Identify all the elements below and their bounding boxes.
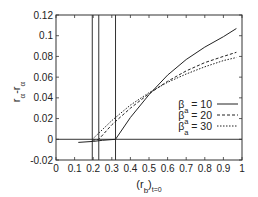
x-tick-label: 0.2 bbox=[86, 163, 100, 174]
y-tick-label: 0 bbox=[47, 134, 53, 145]
legend: βa = 10βa = 20βa = 30 bbox=[178, 98, 238, 137]
legend-label: βa = 30 bbox=[178, 120, 212, 137]
y-axis-label: rα-rα bbox=[10, 81, 27, 102]
x-tick-label: 0.4 bbox=[123, 163, 137, 174]
x-tick-label: 0.7 bbox=[179, 163, 193, 174]
series-line-3 bbox=[92, 58, 236, 140]
line-chart: 00.10.20.30.40.50.60.70.80.91-0.0200.020… bbox=[0, 0, 258, 197]
series-layer bbox=[78, 15, 236, 160]
x-tick-label: 1 bbox=[239, 163, 245, 174]
series-line-1 bbox=[78, 29, 236, 143]
y-tick-label: 0.02 bbox=[34, 113, 54, 124]
x-tick-label: 0.9 bbox=[216, 163, 230, 174]
y-tick-label: 0.08 bbox=[34, 51, 54, 62]
x-tick-label: 0.6 bbox=[161, 163, 175, 174]
axes: 00.10.20.30.40.50.60.70.80.91-0.0200.020… bbox=[30, 10, 245, 175]
x-tick-label: 0.3 bbox=[105, 163, 119, 174]
y-tick-label: 0.1 bbox=[39, 30, 53, 41]
y-tick-label: 0.12 bbox=[34, 10, 54, 21]
plot-frame bbox=[56, 15, 242, 160]
x-tick-label: 0 bbox=[53, 163, 59, 174]
x-tick-label: 0.8 bbox=[198, 163, 212, 174]
x-tick-label: 0.1 bbox=[68, 163, 82, 174]
series-line-2 bbox=[92, 52, 236, 140]
y-tick-label: -0.02 bbox=[30, 155, 53, 166]
x-tick-label: 0.5 bbox=[142, 163, 156, 174]
y-tick-label: 0.04 bbox=[34, 92, 54, 103]
x-axis-label: (rb)t=0 bbox=[136, 178, 161, 195]
y-tick-label: 0.06 bbox=[34, 72, 54, 83]
